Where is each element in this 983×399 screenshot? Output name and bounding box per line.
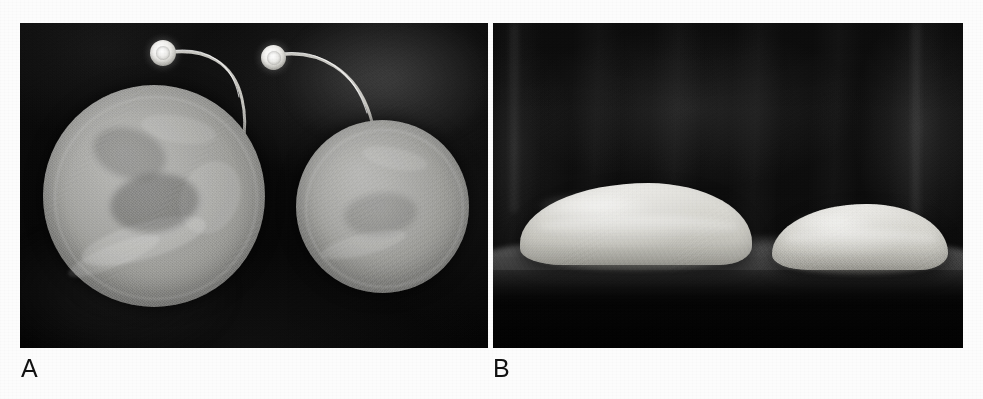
panel-b <box>493 23 963 348</box>
injection-port-septum <box>156 46 171 61</box>
dome-specular <box>534 194 659 219</box>
support-surface-shadow <box>493 270 963 348</box>
panel-label-a: A <box>21 356 38 381</box>
cloth-fold-right <box>911 23 921 238</box>
panel-a <box>20 23 488 348</box>
large-implant-disc <box>43 85 265 307</box>
figure-container: A B <box>0 0 983 399</box>
injection-port-left <box>150 40 176 66</box>
panel-label-b: B <box>493 356 510 381</box>
injection-port-septum <box>267 51 281 65</box>
cloth-fold-left <box>509 23 519 212</box>
dome-specular <box>790 215 878 235</box>
injection-port-right <box>261 45 286 70</box>
small-implant-disc <box>296 120 469 293</box>
